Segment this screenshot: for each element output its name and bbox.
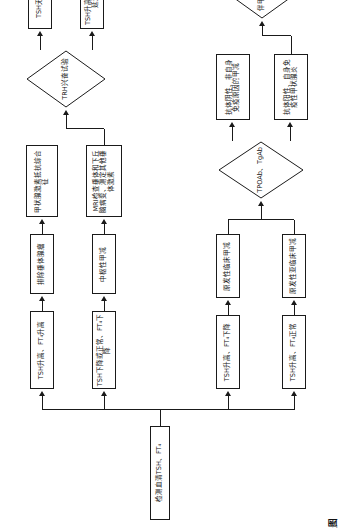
edge-ab-positive-out xyxy=(291,36,292,54)
node-primary-subclinical: 原发性亚临床甲减 xyxy=(282,234,306,298)
edge-ab-positive xyxy=(290,127,291,141)
edge-mri-out xyxy=(104,129,105,145)
arrow-branch4-subclinical xyxy=(291,300,297,305)
node-start-label: 检测血清TSH、FT₄ xyxy=(156,444,163,503)
edge-primary-subclinical-out xyxy=(294,220,295,234)
node-branch-tsh-up-ft4-normal-label: TSH升高、FT₄正常 xyxy=(290,323,297,382)
node-primary-clinical: 原发性临床甲减 xyxy=(216,234,240,298)
node-start: 检测血清TSH、FT₄ xyxy=(150,426,170,520)
figure-title: 甲状腺功能减退症诊断流程图 xyxy=(328,518,338,528)
edge-branch4-subclinical xyxy=(294,305,295,315)
node-antibody-test: TPOAb、TgAb xyxy=(218,141,304,199)
edge-exclude-resistance xyxy=(42,224,43,234)
node-tsh-delayed: TSH升高且高峰延迟 xyxy=(80,0,104,29)
node-tsh-no-response-label: TSH无反应 xyxy=(36,0,43,18)
node-central-hypo: 中枢性甲减 xyxy=(92,234,116,294)
node-ab-negative-label: 抗体阴性、非自身免疫原因的甲减 xyxy=(226,56,241,118)
arrow-to-branch2 xyxy=(101,391,107,396)
node-branch-tsh-up-ft4-normal: TSH升高、FT₄正常 xyxy=(282,315,306,389)
node-exclude-adenoma-label: 排除垂体腺瘤 xyxy=(38,243,45,285)
arrow-central-mri xyxy=(101,219,107,224)
edge-primary-merge-out xyxy=(261,206,262,220)
edge-mri-to-trh xyxy=(66,115,67,129)
node-exclude-adenoma: 排除垂体腺瘤 xyxy=(30,234,54,294)
arrow-to-branch4 xyxy=(291,391,297,396)
edge-mri-riser xyxy=(66,128,104,129)
node-resistance-label: 甲状腺激素抵抗综合征 xyxy=(35,147,50,215)
node-trh-test: TRH兴奋试验 xyxy=(26,50,106,108)
edge-ab-positive-riser xyxy=(262,35,291,36)
arrow-trh-down xyxy=(89,31,95,36)
node-branch-tsh-up-ft4-up-label: TSH升高、FT₄升高 xyxy=(38,321,45,380)
node-primary-clinical-label: 原发性临床甲减 xyxy=(224,242,231,291)
edge-distribution-bar xyxy=(42,409,294,410)
node-ab-negative: 抗体阴性、非自身免疫原因的甲减 xyxy=(216,54,250,120)
edge-ab-negative xyxy=(232,127,233,141)
edge-branch2-central xyxy=(104,301,105,311)
node-goiter: 伴甲状腺肿大 xyxy=(222,0,302,19)
node-branch-tsh-up-ft4-down-label: TSH升高、FT₄下降 xyxy=(224,323,231,382)
edge-trh-down xyxy=(92,36,93,50)
arrow-branch3-primary xyxy=(225,300,231,305)
edge-ab-positive-to-goiter xyxy=(262,26,263,36)
arrow-mri-to-trh xyxy=(63,110,69,115)
edge-branch1-exclude xyxy=(42,301,43,311)
node-ab-positive-label: 抗体阳性、自身免疫性甲状腺炎 xyxy=(284,56,299,118)
node-branch-tsh-up-ft4-down: TSH升高、FT₄下降 xyxy=(216,315,240,389)
edge-branch3-primary xyxy=(228,305,229,315)
edge-to-branch2 xyxy=(104,396,105,410)
edge-primary-clinical-out xyxy=(228,220,229,234)
arrow-branch2-central xyxy=(101,296,107,301)
edge-to-branch4 xyxy=(294,396,295,410)
arrow-branch1-exclude xyxy=(39,296,45,301)
arrow-ab-negative xyxy=(229,122,235,127)
arrow-trh-up xyxy=(37,31,43,36)
arrow-to-goiter xyxy=(259,21,265,26)
node-tsh-delayed-label: TSH升高且高峰延迟 xyxy=(85,0,100,27)
node-mri-label: MRI检查垂体和下丘脑病变、测定其他垂体激素 xyxy=(93,147,115,215)
arrow-exclude-resistance xyxy=(39,219,45,224)
node-branch-central: TSH下降或正常、FT₄下降 xyxy=(92,311,116,389)
edge-to-branch1 xyxy=(42,396,43,410)
node-trh-test-label: TRH兴奋试验 xyxy=(26,50,106,108)
node-mri: MRI检查垂体和下丘脑病变、测定其他垂体激素 xyxy=(86,145,122,217)
edge-start-trunk xyxy=(160,410,161,426)
node-tsh-no-response: TSH无反应 xyxy=(28,0,52,29)
node-branch-central-label: TSH下降或正常、FT₄下降 xyxy=(97,313,112,387)
arrow-to-branch1 xyxy=(39,391,45,396)
node-primary-subclinical-label: 原发性亚临床甲减 xyxy=(290,238,297,294)
node-ab-positive: 抗体阳性、自身免疫性甲状腺炎 xyxy=(274,54,308,120)
arrow-ab-positive xyxy=(287,122,293,127)
edge-to-branch3 xyxy=(228,396,229,410)
node-central-hypo-label: 中枢性甲减 xyxy=(100,247,107,282)
edge-trh-up xyxy=(40,36,41,50)
edge-central-mri xyxy=(104,224,105,234)
node-resistance: 甲状腺激素抵抗综合征 xyxy=(26,145,58,217)
node-antibody-test-label: TPOAb、TgAb xyxy=(218,141,304,199)
figure-caption: 图 2-2-3 甲状腺功能减退症诊断流程图 xyxy=(326,518,338,528)
node-branch-tsh-up-ft4-up: TSH升高、FT₄升高 xyxy=(30,311,54,389)
figure-page: 检测血清TSH、FT₄ TSH升高、FT₄升高 排除垂体腺瘤 甲状腺激素抵抗综合… xyxy=(0,0,342,528)
node-goiter-label: 伴甲状腺肿大 xyxy=(222,0,302,19)
arrow-primary-merge-out xyxy=(258,201,264,206)
arrow-to-branch3 xyxy=(225,391,231,396)
flowchart-canvas: 检测血清TSH、FT₄ TSH升高、FT₄升高 排除垂体腺瘤 甲状腺激素抵抗综合… xyxy=(0,0,342,528)
